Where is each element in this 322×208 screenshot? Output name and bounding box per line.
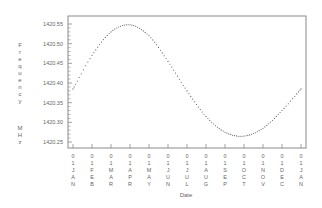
svg-text:0: 0	[280, 153, 283, 159]
svg-text:U: U	[185, 174, 189, 180]
svg-text:E: E	[90, 174, 94, 180]
x-tick-label: 01JAN	[71, 153, 75, 187]
x-tick-label: 01OCT	[242, 153, 247, 187]
svg-text:T: T	[242, 181, 246, 187]
svg-text:A: A	[109, 174, 113, 180]
data-series	[72, 24, 301, 137]
svg-text:n: n	[18, 84, 21, 90]
svg-text:J: J	[72, 167, 75, 173]
x-tick-label: 01NOV	[261, 153, 266, 187]
svg-text:y: y	[19, 98, 22, 104]
svg-text:A: A	[71, 174, 75, 180]
svg-text:C: C	[280, 181, 284, 187]
svg-text:G: G	[204, 181, 208, 187]
svg-text:e: e	[18, 56, 22, 62]
x-tick-label: 01JAN	[299, 153, 303, 187]
y-tick-label: 1420.45	[43, 60, 63, 66]
svg-text:c: c	[19, 91, 22, 97]
svg-text:0: 0	[242, 153, 245, 159]
svg-text:S: S	[223, 167, 227, 173]
svg-text:J: J	[300, 167, 303, 173]
svg-text:O: O	[261, 174, 266, 180]
x-tick-label: 01JUN	[166, 153, 170, 187]
svg-text:A: A	[128, 167, 132, 173]
svg-text:M: M	[109, 167, 114, 173]
svg-text:U: U	[204, 174, 208, 180]
svg-text:A: A	[204, 167, 208, 173]
y-tick-label: 1420.25	[43, 139, 63, 145]
svg-text:0: 0	[71, 153, 74, 159]
svg-text:N: N	[71, 181, 75, 187]
y-tick-label: 1420.35	[43, 100, 63, 106]
x-axis-title: Date	[180, 192, 193, 198]
svg-text:U: U	[166, 174, 170, 180]
svg-text:A: A	[299, 174, 303, 180]
svg-text:1: 1	[185, 160, 188, 166]
plot-frame	[68, 16, 306, 148]
svg-text:u: u	[18, 70, 21, 76]
svg-text:1: 1	[280, 160, 283, 166]
svg-text:R: R	[128, 181, 132, 187]
svg-text:O: O	[242, 167, 247, 173]
svg-text:1: 1	[166, 160, 169, 166]
x-tick-label: 01APR	[128, 153, 132, 187]
svg-text:r: r	[19, 49, 21, 55]
svg-text:0: 0	[204, 153, 207, 159]
svg-text:M: M	[147, 167, 152, 173]
svg-text:Y: Y	[147, 181, 151, 187]
svg-text:e: e	[18, 77, 22, 83]
svg-text:N: N	[166, 181, 170, 187]
svg-text:1: 1	[204, 160, 207, 166]
x-tick-label: 01JUL	[185, 153, 189, 187]
svg-text:1: 1	[71, 160, 74, 166]
y-tick-label: 1420.50	[43, 41, 63, 47]
svg-text:J: J	[167, 167, 170, 173]
svg-text:R: R	[109, 181, 113, 187]
svg-text:0: 0	[299, 153, 302, 159]
svg-text:q: q	[18, 63, 21, 69]
svg-text:0: 0	[261, 153, 264, 159]
svg-text:0: 0	[147, 153, 150, 159]
svg-text:H: H	[18, 132, 22, 138]
svg-text:1: 1	[147, 160, 150, 166]
svg-text:0: 0	[109, 153, 112, 159]
svg-text:L: L	[185, 181, 188, 187]
x-axis: 01JAN01FEB01MAR01APR01MAY01JUN01JUL01AUG…	[71, 144, 303, 187]
svg-text:N: N	[261, 167, 265, 173]
x-tick-label: 01MAY	[147, 153, 152, 187]
svg-text:D: D	[280, 167, 284, 173]
svg-text:B: B	[90, 181, 94, 187]
svg-text:1: 1	[299, 160, 302, 166]
svg-text:1: 1	[90, 160, 93, 166]
svg-text:1: 1	[223, 160, 226, 166]
svg-text:1: 1	[109, 160, 112, 166]
svg-text:P: P	[223, 181, 227, 187]
svg-text:0: 0	[185, 153, 188, 159]
svg-text:N: N	[299, 181, 303, 187]
svg-text:0: 0	[90, 153, 93, 159]
svg-text:C: C	[242, 174, 246, 180]
svg-text:0: 0	[128, 153, 131, 159]
svg-text:E: E	[223, 174, 227, 180]
svg-text:V: V	[261, 181, 265, 187]
x-tick-label: 01FEB	[90, 153, 94, 187]
svg-text:1: 1	[128, 160, 131, 166]
y-tick-label: 1420.40	[43, 80, 63, 86]
x-tick-label: 01DEC	[280, 153, 284, 187]
svg-text:M: M	[18, 125, 23, 131]
y-tick-label: 1420.55	[43, 21, 63, 27]
svg-text:E: E	[280, 174, 284, 180]
svg-text:1: 1	[261, 160, 264, 166]
svg-text:z: z	[19, 139, 22, 145]
svg-text:F: F	[90, 167, 94, 173]
svg-text:0: 0	[223, 153, 226, 159]
svg-text:1: 1	[242, 160, 245, 166]
svg-text:A: A	[147, 174, 151, 180]
x-tick-label: 01SEP	[223, 153, 227, 187]
y-axis-title: FrequencyMHz	[18, 42, 23, 145]
svg-text:F: F	[18, 42, 22, 48]
svg-text:P: P	[128, 174, 132, 180]
svg-text:0: 0	[166, 153, 169, 159]
x-tick-label: 01MAR	[109, 153, 114, 187]
y-tick-label: 1420.30	[43, 119, 63, 125]
